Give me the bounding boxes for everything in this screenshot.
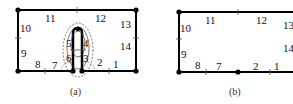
diagram: 1 2 3 4 5 6 7 8 9 10 11 12 13 14 (a) 1 2… [0,0,293,104]
edge-label: 6 [66,52,72,64]
edge-label: 2 [97,56,103,68]
edge-label: 7 [52,59,58,71]
edge-label: 10 [180,22,192,34]
edge-label: 10 [20,22,32,34]
edge-label: 11 [45,12,56,24]
edge-label: 11 [205,14,216,26]
edge-label: 3 [83,52,89,64]
edge-label: 5 [66,37,72,49]
edge-label: 1 [274,60,280,72]
edge-label: 9 [181,48,187,60]
edge-label: 12 [256,14,267,26]
edge-label: 14 [120,40,132,52]
edge-label: 13 [283,19,293,31]
panel-b: 1 2 7 8 9 10 11 12 13 14 (b) [176,9,293,98]
edge-label: 14 [283,42,293,54]
edge-label: 9 [21,47,27,59]
edge-label: 12 [95,12,106,24]
edge-label: 8 [195,59,201,71]
edge-label: 7 [216,60,222,72]
edge-label: 1 [113,58,119,70]
edge-label: 8 [35,58,41,70]
caption-a: (a) [70,86,81,98]
caption-b: (b) [229,86,241,98]
edge-label: 13 [120,18,132,30]
panel-a: 1 2 3 4 5 6 7 8 9 10 11 12 13 14 (a) [15,7,139,98]
edge-label: 4 [83,37,89,49]
edge-label: 2 [253,60,259,72]
